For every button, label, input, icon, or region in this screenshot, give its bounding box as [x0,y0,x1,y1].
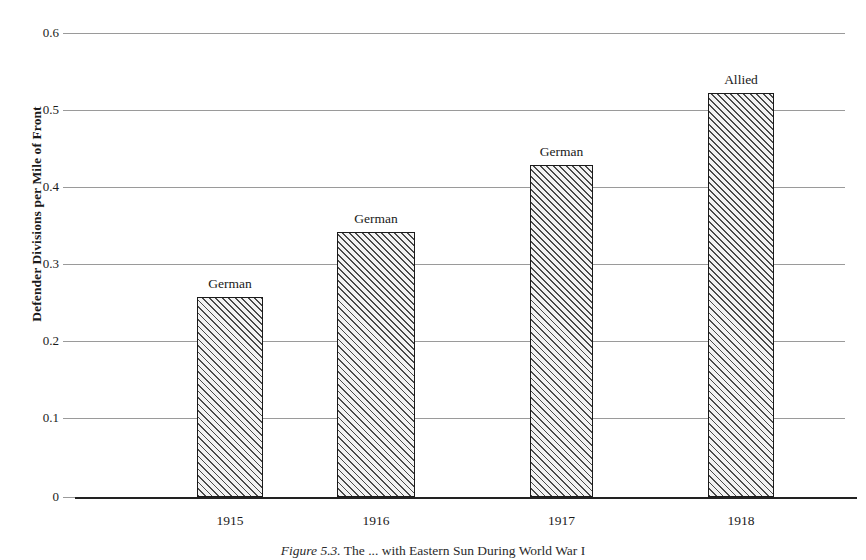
bar-1917[interactable]: German 1917 [530,165,593,497]
tick-stub-0.4 [63,187,75,188]
x-tick-label-1917: 1917 [548,513,575,529]
x-tick-label-1915: 1915 [217,513,244,529]
y-tick-label-0.5: 0.5 [43,102,59,118]
figure-number: Figure 5.3. [281,543,341,558]
figure-caption: Figure 5.3. The ... with Eastern Sun Dur… [0,543,866,559]
y-tick-label-0.6: 0.6 [43,25,59,41]
x-tick-label-1918: 1918 [728,513,755,529]
bar-value-label-1918: Allied [724,72,758,88]
tick-stub-0.1 [63,418,75,419]
bar-1915[interactable]: German 1915 [197,297,263,497]
tick-stub-0.3 [63,264,75,265]
y-tick-label-0: 0 [53,489,60,505]
y-tick-label-0.2: 0.2 [43,333,59,349]
y-tick-label-0.3: 0.3 [43,256,59,272]
plot-area: 0.6 0.5 0.4 0.3 0.2 0.1 0 German [75,33,845,497]
bar-value-label-1915: German [208,276,251,292]
tick-stub-0.2 [63,341,75,342]
tick-stub-0 [63,497,75,498]
bar-value-label-1916: German [354,211,397,227]
figure-bar-chart: Defender Divisions per Mile of Front 0.6… [0,0,866,560]
y-tick-label-0.1: 0.1 [43,410,59,426]
x-tick-label-1916: 1916 [363,513,390,529]
tick-stub-0.6 [63,33,75,34]
figure-caption-text: The ... with Eastern Sun During World Wa… [344,543,585,558]
x-axis-line: 0 [75,497,857,499]
y-tick-label-0.4: 0.4 [43,179,59,195]
bar-1916[interactable]: German 1916 [337,232,415,497]
bar-1918[interactable]: Allied 1918 [708,93,774,497]
tick-stub-0.5 [63,110,75,111]
gridline-0.6: 0.6 [75,33,845,34]
bar-value-label-1917: German [540,144,583,160]
